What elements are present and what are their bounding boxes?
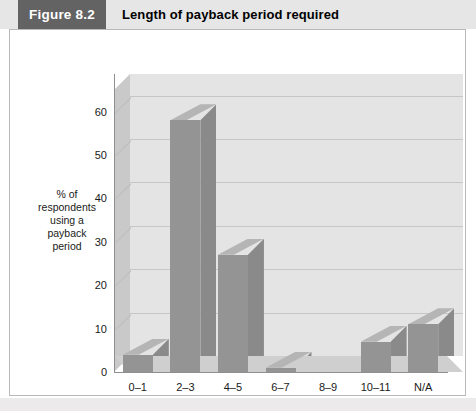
bar-side-face	[248, 239, 264, 356]
gridline-side	[114, 313, 131, 330]
y-axis-title-line-3: using a	[24, 214, 110, 227]
y-tick-label: 50	[95, 149, 107, 161]
bar-column	[266, 368, 296, 372]
gridline-side	[114, 269, 131, 286]
gridline	[130, 96, 463, 97]
figure-header-band: Figure 8.2 Length of payback period requ…	[0, 0, 476, 29]
figure-title: Length of payback period required	[122, 0, 339, 29]
bar-column	[361, 342, 391, 372]
bar-front-face	[266, 368, 296, 372]
bar-front-face	[123, 355, 153, 372]
y-tick-label: 40	[95, 192, 107, 204]
bar-column	[408, 324, 438, 372]
plot-area: 0102030405060 0–12–34–56–78–910–11N/A	[114, 90, 447, 372]
gridline-side	[114, 96, 131, 113]
figure-number-badge: Figure 8.2	[18, 0, 106, 29]
x-tick-label: 8–9	[319, 381, 337, 393]
gridline-side	[114, 226, 131, 243]
bar-column	[218, 255, 248, 372]
y-tick-label: 20	[95, 279, 107, 291]
x-tick-label: 4–5	[224, 381, 242, 393]
bar-column	[123, 355, 153, 372]
bar-column	[170, 120, 200, 372]
y-tick-label: 0	[101, 366, 107, 378]
y-tick-label: 60	[95, 106, 107, 118]
bar-front-face	[361, 342, 391, 372]
x-tick-label: 6–7	[271, 381, 289, 393]
bar-front-face	[170, 120, 200, 372]
y-tick-label: 30	[95, 236, 107, 248]
x-tick-label: 2–3	[176, 381, 194, 393]
bar-front-face	[408, 324, 438, 372]
gridline-side	[114, 139, 131, 156]
x-tick-label: 10–11	[361, 381, 391, 393]
x-axis-line	[114, 372, 448, 373]
x-tick-label: 0–1	[129, 381, 147, 393]
x-tick-label: N/A	[414, 381, 432, 393]
bar-front-face	[218, 255, 248, 372]
y-axis-line	[114, 74, 115, 372]
gridline-side	[114, 182, 131, 199]
y-tick-label: 10	[95, 323, 107, 335]
page-bottom-shadow	[0, 398, 476, 411]
chart-frame: % of respondents using a payback period …	[9, 29, 466, 396]
bar-side-face	[200, 104, 216, 356]
